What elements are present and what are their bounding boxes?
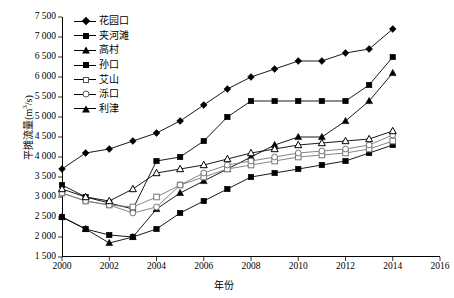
x-tick-label: 2008 [231,261,271,271]
legend-marker-icon [81,45,91,55]
legend-marker-icon [81,60,91,70]
x-tick-label: 2016 [420,261,454,271]
data-point-marker [129,185,136,191]
legend-marker-icon [81,104,91,114]
data-point-marker [107,232,112,237]
legend-item-label: 花园口 [99,16,129,26]
data-point-marker [82,150,89,157]
legend-item-label: 高村 [99,45,119,55]
data-point-marker [225,114,230,119]
x-tick-label: 2000 [42,261,82,271]
legend-item-利津[interactable]: 利津 [74,102,136,117]
legend-item-花园口[interactable]: 花园口 [74,14,136,29]
data-point-marker [272,154,278,160]
legend-marker-icon [81,16,91,26]
data-point-marker [296,166,301,171]
legend-swatch [74,16,96,26]
data-point-marker [200,102,207,109]
data-point-marker [390,54,395,59]
data-point-marker [271,66,278,73]
data-point-marker [129,138,136,145]
legend-swatch [74,75,96,85]
data-point-marker [296,98,301,103]
legend-marker-icon [81,31,91,41]
data-point-marker [343,158,348,163]
legend-item-label: 夹河滩 [99,31,129,41]
x-tick-label: 2012 [326,261,366,271]
data-point-marker [177,118,184,125]
legend-item-label: 泺口 [99,89,119,99]
legend-item-label: 利津 [99,104,119,114]
data-point-marker [272,170,277,175]
legend-item-夹河滩[interactable]: 夹河滩 [74,29,136,44]
data-point-marker [390,138,396,144]
data-point-marker [177,182,183,188]
data-point-marker [153,130,160,137]
data-point-marker [272,98,277,103]
legend-marker-icon [81,89,91,99]
data-point-marker [248,74,255,81]
data-point-marker [295,150,301,156]
legend-swatch [74,89,96,99]
data-point-marker [319,162,324,167]
data-point-marker [130,210,136,216]
data-point-marker [319,98,324,103]
data-point-marker [154,194,160,200]
data-point-marker [343,146,349,152]
legend-item-艾山[interactable]: 艾山 [74,72,136,87]
data-point-marker [224,162,230,168]
data-point-marker [154,226,159,231]
legend-item-label: 孙口 [99,60,119,70]
data-point-marker [201,170,207,176]
legend-item-label: 艾山 [99,75,119,85]
data-point-marker [177,210,182,215]
legend-item-高村[interactable]: 高村 [74,43,136,58]
data-point-marker [177,154,182,159]
data-point-marker [343,98,348,103]
data-point-marker [319,148,325,154]
data-point-marker [154,158,159,163]
data-point-marker [154,204,160,210]
data-point-marker [248,158,254,164]
data-point-marker [59,166,66,173]
data-point-marker [201,138,206,143]
data-point-marker [130,234,135,239]
legend-item-泺口[interactable]: 泺口 [74,87,136,102]
data-point-marker [366,82,371,87]
legend-swatch [74,60,96,70]
legend-marker-icon [81,75,91,85]
data-point-marker [366,142,372,148]
x-axis-title: 年份 [0,277,447,292]
data-point-marker [248,174,253,179]
legend-swatch [74,45,96,55]
data-point-marker [177,189,184,195]
data-point-marker [318,58,325,65]
data-point-marker [106,146,113,153]
data-point-marker [130,204,136,210]
legend-item-孙口[interactable]: 孙口 [74,58,136,73]
x-tick-label: 2014 [373,261,413,271]
x-tick-label: 2004 [137,261,177,271]
x-tick-label: 2006 [184,261,224,271]
data-point-marker [83,226,88,231]
legend-swatch [74,31,96,41]
x-axis-tick-labels: 200020022004200620082010201220142016 [0,261,447,275]
data-point-marker [224,86,231,93]
data-point-marker [295,58,302,65]
data-point-marker [59,214,64,219]
x-tick-label: 2002 [89,261,129,271]
data-point-marker [342,117,349,123]
data-point-marker [342,50,349,57]
data-point-marker [248,98,253,103]
data-point-marker [225,186,230,191]
data-point-marker [389,127,396,133]
legend-swatch [74,104,96,114]
data-point-marker [389,69,396,75]
data-point-marker [201,198,206,203]
chart-legend: 花园口夹河滩高村孙口艾山泺口利津 [74,14,136,116]
x-tick-label: 2010 [278,261,318,271]
data-point-marker [295,133,302,139]
